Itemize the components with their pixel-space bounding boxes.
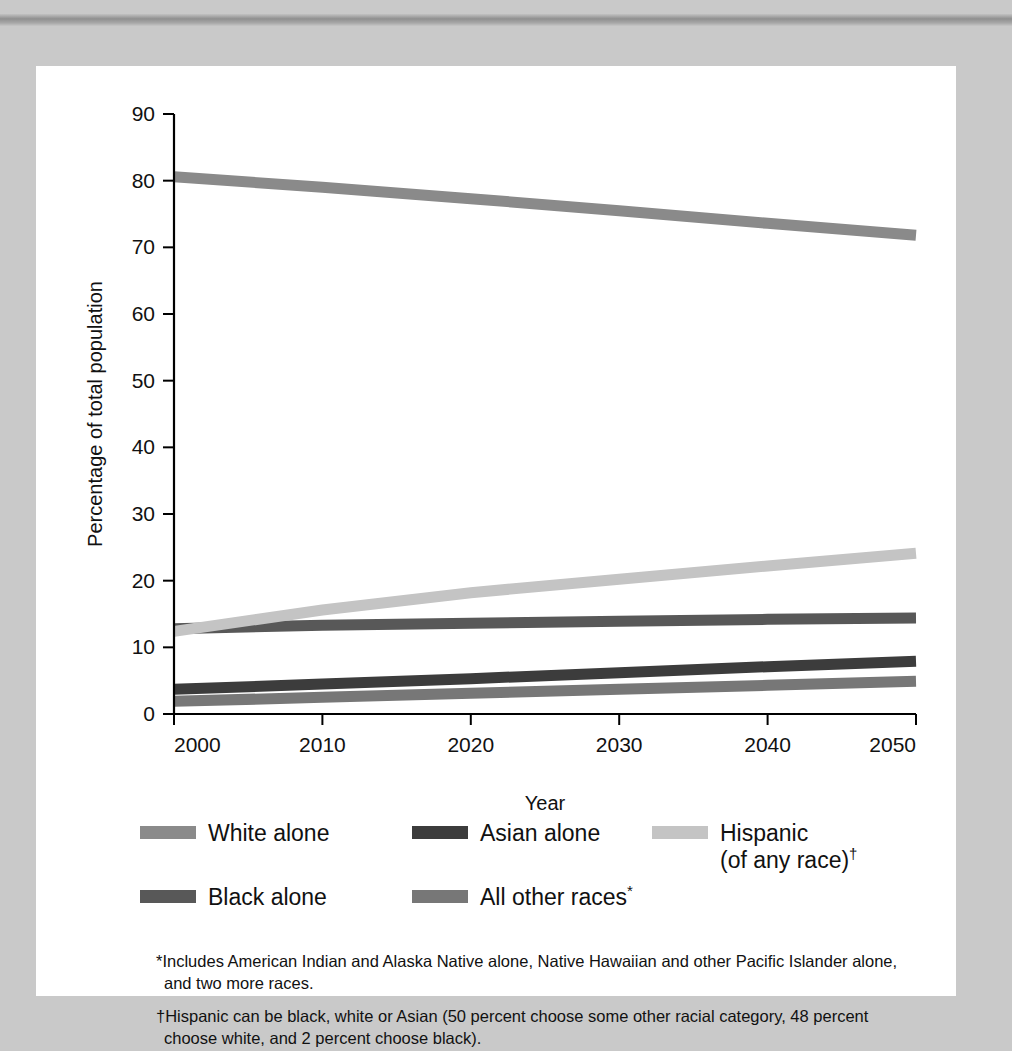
series-line-0 bbox=[174, 177, 916, 236]
legend-item: Asian alone bbox=[412, 820, 652, 874]
x-tick-label: 2030 bbox=[596, 733, 643, 756]
series-group bbox=[174, 177, 916, 702]
page-top-rule bbox=[0, 14, 1012, 26]
footnote: *Includes American Indian and Alaska Nat… bbox=[156, 950, 926, 994]
y-tick-label: 90 bbox=[132, 102, 155, 125]
legend-swatch bbox=[412, 826, 468, 839]
legend-swatch bbox=[140, 826, 196, 839]
footnotes-block: *Includes American Indian and Alaska Nat… bbox=[156, 950, 926, 1051]
legend-item: White alone bbox=[140, 820, 412, 874]
y-tick-label: 70 bbox=[132, 235, 155, 258]
legend-swatch bbox=[652, 826, 708, 839]
footnote: †Hispanic can be black, white or Asian (… bbox=[156, 1005, 926, 1049]
legend-swatch bbox=[412, 890, 468, 903]
y-tick-label: 20 bbox=[132, 569, 155, 592]
y-tick-label: 80 bbox=[132, 169, 155, 192]
legend-item: Hispanic (of any race)† bbox=[652, 820, 940, 874]
y-axis-title: Percentage of total population bbox=[84, 281, 106, 547]
footnote-text: Includes American Indian and Alaska Nati… bbox=[162, 952, 897, 992]
figure-panel: 0102030405060708090200020102020203020402… bbox=[36, 66, 956, 996]
legend-swatch bbox=[140, 890, 196, 903]
legend-item: Black alone bbox=[140, 884, 412, 911]
legend-label: White alone bbox=[208, 820, 329, 847]
x-tick-label: 2000 bbox=[174, 733, 221, 756]
legend-label: Black alone bbox=[208, 884, 327, 911]
y-tick-label: 0 bbox=[143, 702, 155, 725]
x-tick-label: 2040 bbox=[744, 733, 791, 756]
x-axis-title: Year bbox=[525, 792, 566, 814]
x-tick-label: 2020 bbox=[447, 733, 494, 756]
footnote-text: Hispanic can be black, white or Asian (5… bbox=[164, 1007, 868, 1047]
y-tick-label: 60 bbox=[132, 302, 155, 325]
legend-label: Hispanic (of any race)† bbox=[720, 820, 857, 874]
y-tick-label: 40 bbox=[132, 435, 155, 458]
x-tick-label: 2050 bbox=[869, 733, 916, 756]
chart-legend: White aloneAsian aloneHispanic (of any r… bbox=[140, 820, 940, 911]
y-tick-label: 30 bbox=[132, 502, 155, 525]
footnote-marker: † bbox=[156, 1007, 165, 1025]
y-tick-label: 50 bbox=[132, 369, 155, 392]
legend-label: Asian alone bbox=[480, 820, 600, 847]
axis-labels-group: 0102030405060708090200020102020203020402… bbox=[84, 102, 916, 814]
legend-footnote-marker: * bbox=[627, 883, 633, 900]
y-tick-label: 10 bbox=[132, 635, 155, 658]
legend-footnote-marker: † bbox=[849, 845, 857, 862]
legend-label: All other races* bbox=[480, 884, 633, 911]
legend-item: All other races* bbox=[412, 884, 652, 911]
x-tick-label: 2010 bbox=[299, 733, 346, 756]
